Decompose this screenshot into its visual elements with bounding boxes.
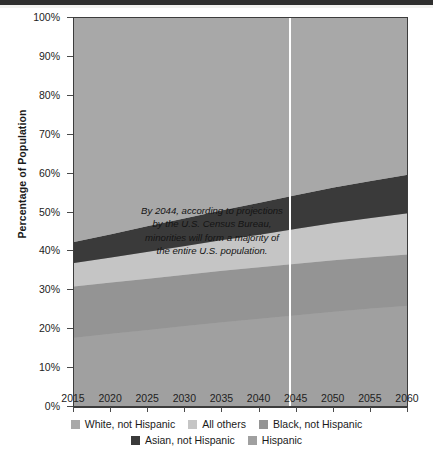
x-tick-mark-2030: [184, 407, 185, 412]
y-tick-label-70: 70%: [18, 128, 60, 140]
legend-item-hispanic[interactable]: Hispanic: [248, 434, 302, 446]
y-tick-label-80: 80%: [18, 89, 60, 101]
legend-row-primary: White, not HispanicAll othersBlack, not …: [0, 418, 433, 430]
annotation-line-2: by the U.S. Census Bureau,: [153, 218, 272, 229]
annotation-line-1: By 2044, according to projections: [141, 205, 283, 216]
legend-swatch-icon: [259, 420, 268, 429]
y-tick-label-30: 30%: [18, 283, 60, 295]
stacked-area-chart: Percentage of Population 100%90%80%70%60…: [0, 0, 433, 452]
y-tick-label-50: 50%: [18, 206, 60, 218]
legend-swatch-icon: [188, 420, 197, 429]
x-tick-mark-2025: [147, 407, 148, 412]
y-tick-mark-10: [67, 367, 73, 368]
legend-swatch-icon: [71, 420, 80, 429]
y-axis-tick-labels: 100%90%80%70%60%50%40%30%20%10%0%: [18, 0, 60, 452]
y-tick-mark-30: [67, 289, 73, 290]
y-tick-label-10: 10%: [18, 361, 60, 373]
y-tick-mark-80: [67, 95, 73, 96]
legend-label: Black, not Hispanic: [273, 418, 362, 430]
x-tick-label-2060: 2060: [385, 392, 429, 404]
legend-item-white-not-hispanic[interactable]: White, not Hispanic: [71, 418, 175, 430]
x-tick-mark-2040: [259, 407, 260, 412]
y-tick-mark-50: [67, 212, 73, 213]
x-tick-mark-2015: [73, 407, 74, 412]
x-tick-mark-2055: [370, 407, 371, 412]
legend-item-asian-not-hispanic[interactable]: Asian, not Hispanic: [131, 434, 235, 446]
legend-item-black-not-hispanic[interactable]: Black, not Hispanic: [259, 418, 362, 430]
x-axis-line: [73, 406, 408, 408]
y-tick-label-100: 100%: [18, 11, 60, 23]
y-tick-label-40: 40%: [18, 244, 60, 256]
plot-area: By 2044, according to projections by the…: [73, 17, 408, 407]
legend-label: White, not Hispanic: [85, 418, 175, 430]
annotation-line-3: minorities will form a majority of: [145, 232, 279, 243]
y-tick-label-60: 60%: [18, 167, 60, 179]
legend-label: Asian, not Hispanic: [145, 434, 235, 446]
x-tick-mark-2020: [110, 407, 111, 412]
y-tick-label-20: 20%: [18, 322, 60, 334]
y-tick-mark-90: [67, 56, 73, 57]
plot-right-edge: [407, 17, 409, 406]
y-tick-mark-60: [67, 173, 73, 174]
legend-label: All others: [202, 418, 246, 430]
legend-item-all-others[interactable]: All others: [188, 418, 246, 430]
legend-row-secondary: Asian, not HispanicHispanic: [0, 434, 433, 446]
y-tick-mark-100: [67, 17, 73, 18]
x-tick-mark-2050: [333, 407, 334, 412]
x-tick-mark-2060: [407, 407, 408, 412]
chart-legend: White, not HispanicAll othersBlack, not …: [0, 418, 433, 450]
y-tick-mark-20: [67, 328, 73, 329]
legend-swatch-icon: [248, 436, 257, 445]
y-tick-mark-70: [67, 134, 73, 135]
y-tick-mark-40: [67, 250, 73, 251]
legend-label: Hispanic: [262, 434, 302, 446]
annotation-line-4: the entire U.S. population.: [157, 245, 268, 256]
legend-swatch-icon: [131, 436, 140, 445]
x-tick-mark-2045: [296, 407, 297, 412]
y-tick-label-90: 90%: [18, 50, 60, 62]
x-tick-mark-2035: [221, 407, 222, 412]
chart-annotation: By 2044, according to projections by the…: [96, 204, 328, 258]
